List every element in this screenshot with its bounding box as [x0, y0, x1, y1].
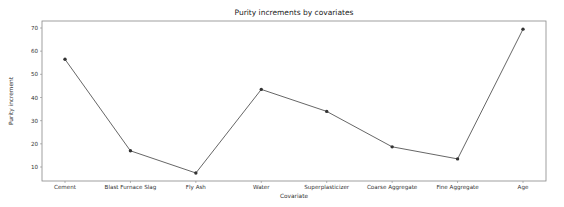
chart-title: Purity increments by covariates [234, 8, 353, 17]
y-tick-label: 40 [31, 95, 39, 101]
x-tick-label: Fly Ash [186, 184, 207, 191]
x-tick-label: Water [253, 184, 270, 190]
y-tick-label: 70 [31, 25, 39, 31]
data-point [194, 171, 197, 174]
data-point [325, 110, 328, 113]
x-tick-label: Blast Furnace Slag [105, 184, 157, 191]
x-tick-label: Fine Aggregate [436, 184, 479, 191]
data-markers [63, 27, 524, 174]
data-line [65, 29, 523, 173]
x-tick-label: Superplasticizer [304, 184, 350, 191]
data-point [390, 145, 393, 148]
y-tick-label: 30 [31, 118, 39, 124]
x-tick-label: Coarse Aggregate [367, 184, 418, 191]
data-point [521, 27, 524, 30]
x-axis-label: Covariate [280, 193, 308, 199]
y-tick-label: 60 [31, 48, 39, 54]
y-axis-label: Purity increment [8, 76, 15, 125]
data-point [129, 149, 132, 152]
plot-area [42, 21, 546, 181]
line-chart: Purity increments by covariates 10203040… [0, 0, 564, 207]
x-axis: CementBlast Furnace SlagFly AshWaterSupe… [54, 181, 529, 191]
x-tick-label: Age [518, 184, 529, 191]
data-point [260, 88, 263, 91]
data-point [456, 157, 459, 160]
data-point [63, 58, 66, 61]
x-tick-label: Cement [54, 184, 77, 190]
y-axis: 10203040506070 [31, 25, 42, 170]
y-tick-label: 10 [31, 164, 39, 170]
y-tick-label: 20 [31, 141, 39, 147]
y-tick-label: 50 [31, 71, 39, 77]
